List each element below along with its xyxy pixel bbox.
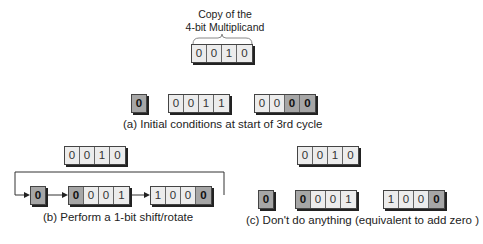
bit-cell: 0 <box>69 187 84 204</box>
bit-cell: 0 <box>207 45 222 62</box>
carry-register-a: 0 <box>131 94 147 113</box>
bit-cell: 1 <box>341 191 356 208</box>
bit-cell: 0 <box>296 191 311 208</box>
label-line-1: Copy of the <box>180 8 270 21</box>
bit-cell: 0 <box>429 191 444 208</box>
bit-cell: 1 <box>328 147 343 164</box>
carry-register-b: 0 <box>30 186 46 205</box>
accumulator-register-b: 0 0 0 1 <box>68 186 130 205</box>
bit-cell: 0 <box>311 191 326 208</box>
bit-cell: 0 <box>132 95 146 112</box>
bit-cell: 0 <box>166 187 181 204</box>
bit-cell: 0 <box>399 191 414 208</box>
multiplicand-register: 0 0 1 0 <box>191 44 253 63</box>
bit-cell: 0 <box>196 187 211 204</box>
bit-cell: 0 <box>270 95 285 112</box>
bit-cell: 0 <box>169 95 184 112</box>
bit-cell: 0 <box>181 187 196 204</box>
bit-cell: 0 <box>80 147 95 164</box>
bit-cell: 0 <box>298 147 313 164</box>
accumulator-register-a: 0 0 1 1 <box>168 94 230 113</box>
bit-cell: 0 <box>313 147 328 164</box>
bit-cell: 1 <box>95 147 110 164</box>
bit-cell: 1 <box>151 187 166 204</box>
bit-cell: 0 <box>184 95 199 112</box>
multiplicand-register-b: 0 0 1 0 <box>64 146 126 165</box>
bit-cell: 0 <box>259 191 273 208</box>
product-register-c: 1 0 0 0 <box>383 190 445 209</box>
caption-b: (b) Perform a 1-bit shift/rotate <box>43 211 193 223</box>
multiplicand-label: Copy of the 4-bit Multiplicand <box>180 8 270 34</box>
caption-c: (c) Don't do anything (equivalent to add… <box>246 214 479 226</box>
bit-cell: 0 <box>110 147 125 164</box>
multiplicand-register-c: 0 0 1 0 <box>297 146 359 165</box>
accumulator-register-c: 0 0 0 1 <box>295 190 357 209</box>
bit-cell: 0 <box>285 95 300 112</box>
bit-cell: 0 <box>300 95 315 112</box>
bit-cell: 1 <box>214 95 229 112</box>
bit-cell: 0 <box>414 191 429 208</box>
bit-cell: 1 <box>384 191 399 208</box>
carry-register-c: 0 <box>258 190 274 209</box>
bit-cell: 0 <box>31 187 45 204</box>
label-line-2: 4-bit Multiplicand <box>180 21 270 34</box>
bit-cell: 0 <box>255 95 270 112</box>
bit-cell: 0 <box>84 187 99 204</box>
bit-cell: 1 <box>114 187 129 204</box>
caption-a: (a) Initial conditions at start of 3rd c… <box>123 118 322 130</box>
product-register-b: 1 0 0 0 <box>150 186 212 205</box>
bit-cell: 1 <box>199 95 214 112</box>
bit-cell: 0 <box>326 191 341 208</box>
bit-cell: 0 <box>99 187 114 204</box>
bit-cell: 0 <box>237 45 252 62</box>
bit-cell: 1 <box>222 45 237 62</box>
bit-cell: 0 <box>192 45 207 62</box>
bit-cell: 0 <box>65 147 80 164</box>
product-register-a: 0 0 0 0 <box>254 94 316 113</box>
bit-cell: 0 <box>343 147 358 164</box>
